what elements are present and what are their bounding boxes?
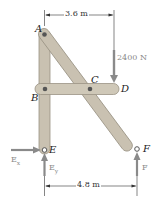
label-D: D xyxy=(121,84,129,94)
label-B: B xyxy=(31,93,38,103)
dimension-bottom-label: 4.8 m xyxy=(76,181,101,189)
ey-label: Ey xyxy=(49,164,58,174)
member-BD xyxy=(35,84,119,95)
ex-label: Ex xyxy=(11,156,20,166)
pin-A xyxy=(42,32,47,37)
dimension-top-label: 3.6 m xyxy=(64,10,89,18)
load-label: 2400 N xyxy=(117,54,147,62)
label-C: C xyxy=(91,75,99,85)
f-force-label: F xyxy=(142,164,148,172)
pin-E xyxy=(42,148,47,153)
frame-diagram xyxy=(0,0,161,199)
label-F: F xyxy=(143,144,150,154)
pin-C xyxy=(88,87,93,92)
label-E: E xyxy=(49,145,56,155)
label-A: A xyxy=(35,24,42,34)
pin-B xyxy=(43,87,48,92)
pin-F xyxy=(135,147,140,152)
